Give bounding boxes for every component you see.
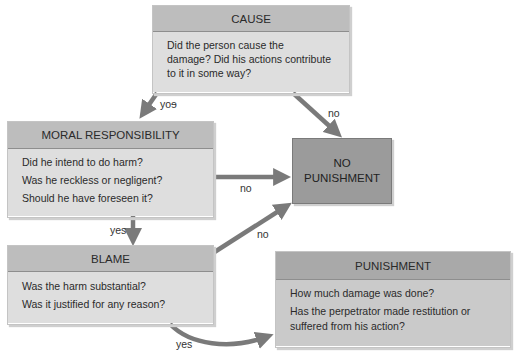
blame-box: BLAME Was the harm substantial? Was it j… [7, 245, 214, 325]
punishment-box: PUNISHMENT How much damage was done? Has… [275, 251, 511, 348]
blame-title: BLAME [8, 246, 213, 272]
cause-line: damage? Did his actions contribute [167, 52, 349, 66]
arrow-blame-to-no-punishment [213, 207, 285, 253]
punishment-body: How much damage was done? Has the perpet… [276, 280, 510, 346]
no-punishment-line2: PUNISHMENT [304, 171, 380, 186]
edge-label-cause-to-no-punishment: no [328, 107, 340, 119]
moral-responsibility-body: Did he intend to do harm? Was he reckles… [8, 149, 213, 216]
edge-label-moral-to-no-punishment: no [240, 182, 252, 194]
punishment-line: Has the perpetrator made restitution or [290, 304, 510, 319]
moral-line: Was he reckless or negligent? [22, 171, 213, 189]
cause-body: Did the person cause the damage? Did his… [153, 32, 349, 92]
blame-line: Was the harm substantial? [22, 277, 213, 295]
cause-line: Did the person cause the [167, 38, 349, 52]
edge-label-cause-to-moral: yoɘ [160, 98, 177, 110]
moral-responsibility-title: MORAL RESPONSIBILITY [8, 122, 213, 149]
edge-label-blame-to-no-punishment: no [257, 228, 269, 240]
cause-line: to it in some way? [167, 66, 349, 80]
punishment-line: suffered from his action? [290, 319, 510, 334]
edge-label-blame-to-punishment: yes [176, 338, 192, 350]
punishment-title: PUNISHMENT [276, 252, 510, 280]
cause-box: CAUSE Did the person cause the damage? D… [152, 5, 350, 94]
arrow-cause-to-moral [144, 93, 157, 112]
edge-label-moral-to-blame: yes [110, 224, 126, 236]
punishment-line: How much damage was done? [290, 286, 510, 301]
no-punishment-line1: NO [333, 156, 350, 171]
moral-responsibility-box: MORAL RESPONSIBILITY Did he intend to do… [7, 121, 214, 218]
moral-line: Should he have foreseen it? [22, 189, 213, 207]
blame-line: Was it justified for any reason? [22, 295, 213, 313]
cause-title: CAUSE [153, 6, 349, 32]
blame-body: Was the harm substantial? Was it justifi… [8, 272, 213, 323]
no-punishment-box: NO PUNISHMENT [292, 138, 392, 204]
moral-line: Did he intend to do harm? [22, 153, 213, 171]
